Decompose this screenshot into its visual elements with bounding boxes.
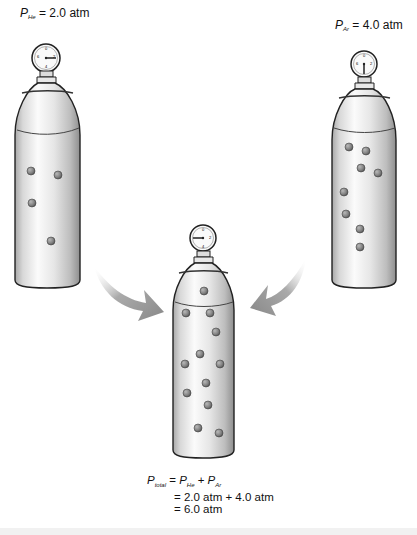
equation-symbol: P: [179, 474, 187, 486]
equation-subscript: total: [155, 482, 166, 488]
equation-line-1: Ptotal = PHe + PAr: [147, 474, 274, 491]
equation-line-3: = 6.0 atm: [147, 503, 274, 515]
equation-equals: =: [166, 474, 179, 486]
combined-tank: 0 2 4: [173, 225, 234, 458]
arrow-left-to-center-icon: [94, 266, 164, 321]
equation-line-2: = 2.0 atm + 4.0 atm: [147, 491, 274, 503]
pressure-gauge-icon: 0 6 2: [351, 51, 377, 77]
arrow-right-to-center-icon: [250, 258, 306, 316]
diagram-canvas: 0 6 2 4 0 6 2: [0, 0, 417, 535]
bottom-border: [0, 528, 417, 535]
pressure-gauge-icon: 0 2 4: [190, 225, 216, 251]
pressure-gauge-icon: 0 6 2 4: [32, 44, 60, 72]
equation-plus: +: [194, 474, 207, 486]
helium-tank: 0 6 2 4: [15, 44, 80, 288]
equation-symbol: P: [147, 474, 155, 486]
total-pressure-equation: Ptotal = PHe + PAr = 2.0 atm + 4.0 atm =…: [147, 474, 274, 515]
equation-subscript: Ar: [215, 482, 221, 488]
